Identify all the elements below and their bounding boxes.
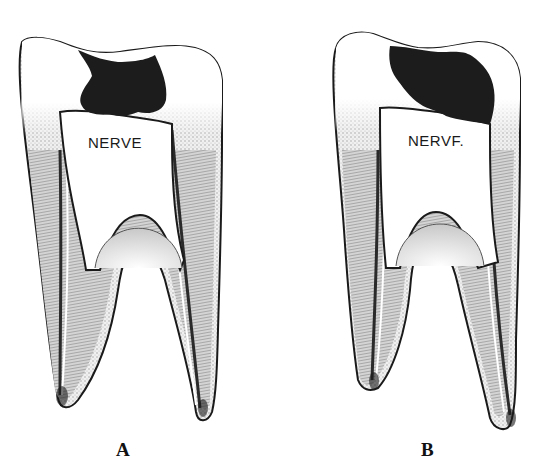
tooth-figure-a: NERVE A xyxy=(0,0,277,469)
nerve-label-a: NERVE xyxy=(88,134,142,151)
nerve-label-b: NERVF. xyxy=(408,132,464,149)
tooth-a-drawing xyxy=(0,0,277,469)
figure-label-b: B xyxy=(421,439,434,461)
tooth-figure-b: NERVF. B xyxy=(278,0,555,469)
figure-label-a: A xyxy=(116,439,130,461)
tooth-b-drawing xyxy=(278,0,555,469)
